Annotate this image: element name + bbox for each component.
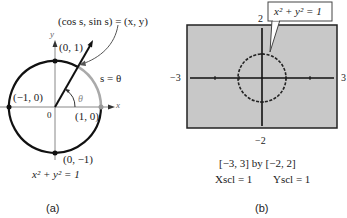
x-axis-label: x	[116, 101, 120, 110]
yscl-label: Yscl = 1	[273, 174, 310, 185]
point-0-1-label: (0, 1)	[59, 42, 83, 53]
origin-label: 0	[47, 111, 52, 120]
caption-a: (a)	[46, 203, 59, 214]
angle-label: θ	[78, 94, 83, 104]
point-0-neg1-label: (0, −1)	[63, 154, 93, 165]
xscl-label: Xscl = 1	[215, 174, 252, 185]
arc-label: s = θ	[100, 73, 121, 84]
point-neg1-0	[7, 105, 12, 110]
y-axis-arrow-icon	[53, 40, 58, 47]
point-label: (cos s, sin s) = (x, y)	[58, 16, 148, 27]
callout-equation: x² + y² = 1	[274, 6, 322, 17]
xmin-label: −3	[170, 73, 181, 83]
y-axis-label: y	[50, 30, 54, 39]
point-neg1-0-label: (−1, 0)	[13, 92, 43, 103]
x-axis-arrow-icon	[108, 105, 115, 110]
ymin-label: −2	[255, 136, 266, 146]
point-0-neg1	[53, 151, 58, 156]
caption-b: (b)	[255, 203, 268, 214]
point-0-1	[53, 59, 58, 64]
circle-equation: x² + y² = 1	[32, 169, 80, 180]
xmax-label: 3	[341, 73, 346, 83]
ray-arrow-icon	[88, 40, 94, 48]
callout-line	[82, 25, 118, 64]
window-range: [−3, 3] by [−2, 2]	[219, 158, 296, 169]
angle-arc	[66, 90, 75, 107]
point-1-0	[99, 105, 104, 110]
point-1-0-label: (1, 0)	[75, 111, 99, 122]
ymax-label: 2	[258, 14, 263, 24]
